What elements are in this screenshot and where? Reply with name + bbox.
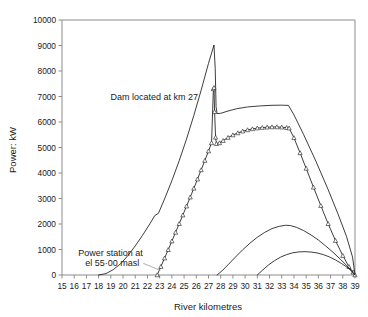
y-tick-label: 2000 bbox=[38, 219, 57, 229]
x-tick-label: 26 bbox=[192, 281, 202, 291]
y-tick-label: 6000 bbox=[38, 117, 57, 127]
x-tick-label: 16 bbox=[70, 281, 80, 291]
y-tick-label: 3000 bbox=[38, 194, 57, 204]
x-tick-label: 37 bbox=[326, 281, 336, 291]
x-tick-label: 28 bbox=[216, 281, 226, 291]
x-tick-label: 22 bbox=[143, 281, 153, 291]
x-tick-label: 19 bbox=[106, 281, 116, 291]
x-tick-label: 15 bbox=[57, 281, 67, 291]
y-tick-label: 1000 bbox=[38, 245, 57, 255]
x-tick-label: 27 bbox=[204, 281, 214, 291]
x-tick-label: 21 bbox=[131, 281, 141, 291]
x-tick-label: 31 bbox=[253, 281, 263, 291]
chart-container: 1516171819202122232425262728293031323334… bbox=[0, 0, 368, 317]
y-tick-label: 5000 bbox=[38, 143, 57, 153]
power-vs-river-kilometres-chart: 1516171819202122232425262728293031323334… bbox=[0, 0, 368, 317]
y-tick-label: 8000 bbox=[38, 66, 57, 76]
dam-annotation-text: Dam located at km 27 bbox=[111, 92, 199, 102]
x-tick-label: 23 bbox=[155, 281, 165, 291]
y-tick-label: 9000 bbox=[38, 41, 57, 51]
power-station-annotation-line2: el 55·00 masl bbox=[85, 258, 139, 268]
y-tick-label: 7000 bbox=[38, 92, 57, 102]
x-tick-label: 29 bbox=[228, 281, 238, 291]
x-tick-label: 34 bbox=[289, 281, 299, 291]
x-tick-label: 32 bbox=[265, 281, 275, 291]
y-tick-label: 10000 bbox=[33, 15, 56, 25]
y-axis-title: Power: kW bbox=[7, 127, 18, 173]
power-station-annotation-line1: Power station at bbox=[78, 248, 143, 258]
x-axis-title: River kilometres bbox=[174, 301, 242, 312]
x-tick-label: 17 bbox=[82, 281, 92, 291]
x-tick-label: 25 bbox=[179, 281, 189, 291]
x-tick-label: 30 bbox=[241, 281, 251, 291]
x-tick-label: 33 bbox=[277, 281, 287, 291]
x-tick-label: 39 bbox=[350, 281, 360, 291]
x-tick-label: 36 bbox=[314, 281, 324, 291]
x-tick-label: 35 bbox=[302, 281, 312, 291]
y-tick-label: 4000 bbox=[38, 168, 57, 178]
y-tick-label: 0 bbox=[51, 270, 56, 280]
x-tick-label: 20 bbox=[118, 281, 128, 291]
x-tick-label: 38 bbox=[338, 281, 348, 291]
x-tick-label: 18 bbox=[94, 281, 104, 291]
x-tick-label: 24 bbox=[167, 281, 177, 291]
